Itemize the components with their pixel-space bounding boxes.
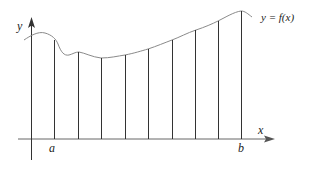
curve-f: [24, 11, 252, 58]
curve-label: y = f(x): [260, 11, 294, 24]
left-bound-label: a: [49, 141, 55, 155]
riemann-diagram: y x y = f(x) a b: [0, 0, 310, 171]
x-axis-label: x: [257, 123, 264, 137]
y-axis-label: y: [16, 19, 23, 33]
right-bound-label: b: [238, 141, 244, 155]
partition-lines: [55, 11, 242, 139]
